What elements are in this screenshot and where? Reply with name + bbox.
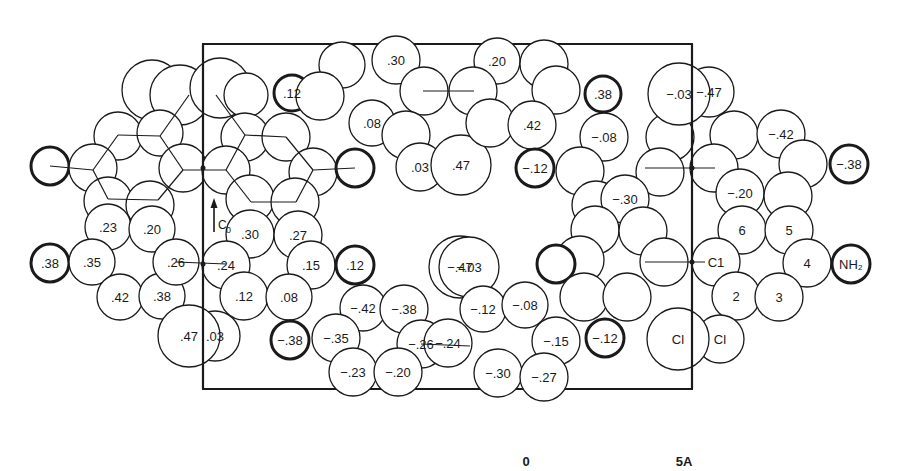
atom-charge-label: −.35 [323,331,349,346]
atom-circle [296,72,344,120]
atom-charge-label: −.12 [522,161,548,176]
atom-charge-label: Cl [714,332,726,347]
atom-charge-label: −.27 [531,370,557,385]
atom-circle [560,273,608,321]
junction-dot [690,166,695,171]
atom-charge-label: .42 [523,118,541,133]
scale-end-label: 5A [676,454,693,469]
atom-charge-label: .03 [206,329,224,344]
atom-charge-label: .08 [280,290,298,305]
atom-charge-label: −.30 [485,366,511,381]
atom-charge-label: .38 [153,289,171,304]
atom-charge-label: .27 [289,228,307,243]
atom-charge-label: 6 [738,223,745,238]
atom-charge-label: C1 [708,255,725,270]
atom-charge-label: −.30 [612,192,638,207]
atom-charge-label: .35 [83,255,101,270]
atom-charge-label: .15 [302,258,320,273]
atom-charge-label: −.42 [350,301,376,316]
atom-charge-label: .47 [452,158,470,173]
atom-circle [224,73,268,117]
axis-subscript: 0 [226,225,231,235]
scale-bar: 0 5A [522,454,693,469]
atom-charge-label: .20 [143,222,161,237]
junction-dot [201,166,206,171]
atom-charge-label: −.03 [666,87,692,102]
atom [466,99,514,147]
atom-charge-label: −.38 [836,157,862,172]
junction-dot [201,262,206,267]
atom-charge-label: 5 [785,223,792,238]
atom [159,144,207,192]
atom-charge-label: −.38 [391,302,417,317]
atom-charge-label: .08 [363,116,381,131]
atom-charge-label: Cl [672,332,684,347]
arrow-head-icon [211,198,218,208]
atom-charge-label: .20 [488,54,506,69]
atom-charge-label: −.20 [385,365,411,380]
atom [603,273,651,321]
atom-charge-label: −.03 [456,260,482,275]
atom-charge-label: .24 [217,258,235,273]
atom-charge-label: −.08 [512,298,538,313]
atom-charge-label: .38 [594,87,612,102]
atom [560,273,608,321]
atom [224,73,268,117]
atom-charge-label: .42 [111,290,129,305]
junction-dot [690,260,695,265]
atom-charge-label: −.15 [543,334,569,349]
scale-start-label: 0 [522,454,529,469]
atom-charge-label: NH₂ [839,257,863,272]
atom-charge-label: .47 [180,329,198,344]
atom-charge-label: .03 [411,160,429,175]
atom-charge-label: .12 [235,289,253,304]
atom [296,72,344,120]
atom-charge-label: .38 [41,256,59,271]
atom-charge-label: −.12 [470,302,496,317]
atom-charge-label: −.23 [340,365,366,380]
molecular-packing-diagram: .23.20.38.35.42.38.26.03.47.12.30.27.24.… [0,0,898,471]
atom-charge-label: 3 [775,290,782,305]
atom-circle [159,144,207,192]
atom-charge-label: 4 [803,256,810,271]
atom-charge-label: .12 [283,86,301,101]
atom-circle [603,273,651,321]
atom-charge-label: .23 [99,220,117,235]
atom-charge-label: −.47 [696,85,722,100]
atom-charge-label: −.24 [435,336,461,351]
atom-charge-label: −.20 [727,186,753,201]
atom-charge-label: .12 [346,258,364,273]
atom-charge-label: .30 [241,227,259,242]
atom-charge-label: −.12 [592,331,618,346]
atom-charge-label: −.08 [591,130,617,145]
atom-charge-label: 2 [732,289,739,304]
atom-charge-label: −.42 [768,127,794,142]
atom-charge-label: −.38 [277,333,303,348]
atom-circle [466,99,514,147]
atom-charge-label: .30 [387,53,405,68]
